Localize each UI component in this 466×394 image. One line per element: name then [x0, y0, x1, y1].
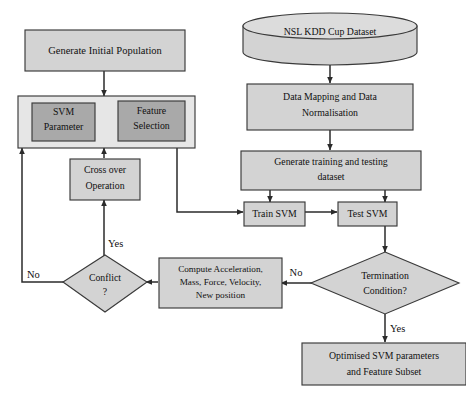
data-mapping-label-line2: Normalisation: [302, 107, 358, 118]
train-svm-label: Train SVM: [252, 208, 297, 219]
compute-acceleration-label-line3: New position: [196, 290, 246, 300]
cross-over-operation-label-line2: Operation: [85, 180, 124, 191]
svm-parameter-label-line1: SVM: [53, 106, 75, 117]
node-train-svm[interactable]: Train SVM: [244, 202, 305, 226]
conflict-label-line2: ?: [103, 286, 107, 297]
optimised-svm-label-line1: Optimised SVM parameters: [329, 350, 439, 361]
feature-selection-label-line1: Feature: [137, 105, 167, 116]
test-svm-label: Test SVM: [348, 208, 388, 219]
generate-training-label-line1: Generate training and testing: [274, 156, 388, 167]
node-generate-training-testing-dataset[interactable]: Generate training and testing dataset: [241, 151, 421, 190]
feature-selection-label-line2: Selection: [133, 120, 170, 131]
node-test-svm[interactable]: Test SVM: [338, 202, 397, 226]
edge-label-termination-no: No: [290, 267, 303, 278]
node-compute-acceleration[interactable]: Compute Acceleration, Mass, Force, Veloc…: [159, 258, 282, 308]
termination-condition-label-line1: Termination: [361, 270, 409, 281]
node-svm-parameter[interactable]: SVM Parameter: [32, 103, 95, 141]
node-cross-over-operation[interactable]: Cross over Operation: [70, 159, 140, 200]
edge-label-conflict-no: No: [27, 269, 40, 280]
compute-acceleration-label-line1: Compute Acceleration,: [178, 264, 263, 274]
generate-training-label-line2: dataset: [317, 171, 344, 182]
termination-condition-label-line2: Condition?: [363, 285, 407, 296]
node-optimised-svm-parameters[interactable]: Optimised SVM parameters and Feature Sub…: [302, 343, 466, 385]
edge-label-conflict-yes: Yes: [108, 238, 123, 249]
edge-label-termination-yes: Yes: [390, 323, 405, 334]
conflict-label-line1: Conflict: [89, 272, 121, 283]
generate-initial-population-label: Generate Initial Population: [48, 45, 162, 56]
flowchart-diagram: Generate Initial Population SVM Paramete…: [0, 0, 466, 394]
data-mapping-label-line1: Data Mapping and Data: [283, 91, 378, 102]
dataset-label: NSL KDD Cup Dataset: [284, 26, 377, 37]
svm-parameter-label-line2: Parameter: [44, 121, 84, 132]
cross-over-operation-label-line1: Cross over: [84, 164, 127, 175]
node-nsl-kdd-cup-dataset[interactable]: NSL KDD Cup Dataset: [243, 13, 417, 65]
node-ga-container[interactable]: SVM Parameter Feature Selection: [18, 96, 195, 148]
node-feature-selection[interactable]: Feature Selection: [118, 101, 185, 141]
node-data-mapping-normalisation[interactable]: Data Mapping and Data Normalisation: [247, 84, 413, 130]
optimised-svm-label-line2: and Feature Subset: [347, 366, 422, 377]
node-generate-initial-population[interactable]: Generate Initial Population: [25, 30, 185, 71]
compute-acceleration-label-line2: Mass, Force, Velocity,: [180, 277, 262, 287]
flowchart-canvas: Generate Initial Population SVM Paramete…: [0, 0, 466, 394]
